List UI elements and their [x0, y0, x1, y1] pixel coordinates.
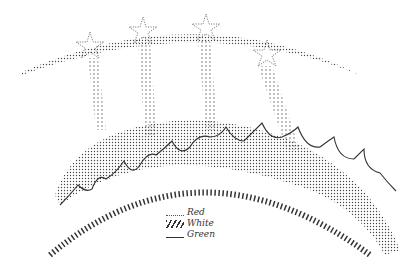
- legend-label: White: [187, 218, 214, 229]
- legend: Red White Green: [166, 207, 215, 240]
- hatch-icon: [166, 220, 184, 228]
- dotted-line-icon: [166, 210, 184, 216]
- legend-item-white: White: [166, 218, 215, 229]
- legend-item-green: Green: [166, 229, 215, 240]
- top-arc-band: [22, 34, 360, 75]
- legend-item-red: Red: [166, 207, 215, 218]
- legend-label: Green: [187, 229, 215, 240]
- tick-line-icon: [166, 232, 184, 238]
- legend-label: Red: [187, 207, 205, 218]
- hill-band: [55, 120, 400, 255]
